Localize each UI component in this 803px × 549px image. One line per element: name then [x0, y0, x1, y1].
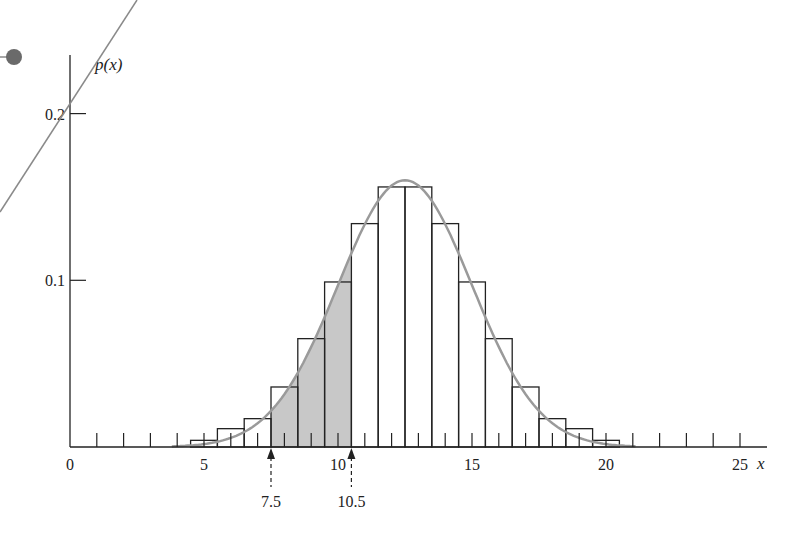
- y-axis-title: p(x): [94, 55, 123, 74]
- y-tick-label: 0.1: [45, 272, 65, 289]
- x-tick-label: 25: [732, 456, 748, 473]
- histogram-bar-16: [485, 339, 512, 447]
- histogram-chart: 0510152025 0.10.2 p(x) x 7.510.5: [0, 0, 803, 549]
- overlay-dot-handle[interactable]: [6, 49, 22, 65]
- x-tick-label: 15: [464, 456, 480, 473]
- arrow-up-icon: [267, 448, 275, 459]
- x-tick-label: 20: [598, 456, 614, 473]
- histogram-bar-12: [378, 187, 405, 447]
- histogram-bar-11: [351, 224, 378, 447]
- normal-curve: [172, 180, 636, 446]
- annotations: 7.510.5: [261, 448, 365, 510]
- overlay-diagonal-line: [0, 0, 137, 212]
- axes: [70, 55, 767, 447]
- histogram-bar-13: [405, 187, 432, 447]
- histogram-bars: [191, 187, 620, 447]
- y-tick-label: 0.2: [45, 106, 65, 123]
- x-axis-title: x: [756, 454, 765, 473]
- annotation-label: 10.5: [337, 493, 365, 510]
- y-tick-labels: 0.10.2: [45, 106, 65, 290]
- x-tick-labels: 0510152025: [66, 456, 748, 473]
- histogram-bar-14: [432, 224, 459, 447]
- arrow-up-icon: [347, 448, 355, 459]
- x-tick-label: 5: [200, 456, 208, 473]
- x-tick-label: 0: [66, 456, 74, 473]
- x-tick-label: 10: [330, 456, 346, 473]
- annotation-label: 7.5: [261, 493, 281, 510]
